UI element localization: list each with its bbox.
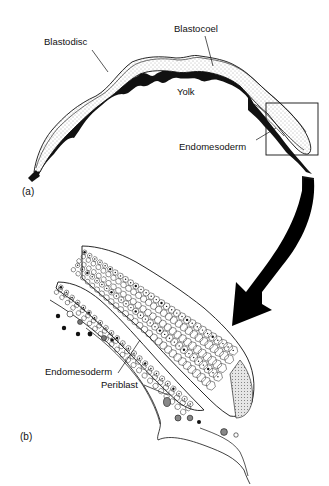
diagram-canvas: [0, 0, 329, 486]
label-blastocoel: Blastocoel: [174, 24, 218, 34]
label-yolk: Yolk: [177, 87, 195, 97]
panel-label-a: (a): [22, 187, 34, 197]
label-periblast: Periblast: [101, 380, 138, 390]
panel-a-blastoderm: [28, 55, 314, 200]
curved-arrow-icon: [232, 178, 314, 326]
label-blastodisc: Blastodisc: [44, 37, 87, 47]
embryo-diagram: Blastodisc Blastocoel Yolk Endomesoderm …: [0, 0, 329, 486]
panel-b-cells: [50, 246, 254, 484]
label-endomesoderm-b: Endomesoderm: [45, 367, 112, 377]
panel-label-b: (b): [20, 432, 32, 442]
label-endomesoderm-a: Endomesoderm: [179, 142, 246, 152]
